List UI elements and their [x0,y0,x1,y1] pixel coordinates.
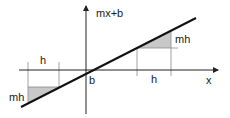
run-label-right: h [151,73,157,85]
rise-label-right: mh [175,33,190,45]
run-label-left: h [40,54,46,66]
function-label: mx+b [96,7,123,19]
x-axis-label: x [206,74,212,86]
function-line [21,18,196,107]
rise-label-left: mh [9,91,24,103]
intercept-label: b [89,74,95,86]
slope-diagram: mx+b b x h mh h mh [0,0,230,118]
